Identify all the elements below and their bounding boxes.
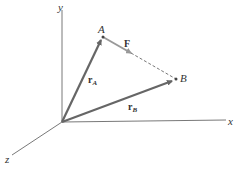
r-b-label: rB [128, 101, 137, 114]
z-axis [12, 122, 62, 155]
z-axis-label: z [4, 153, 10, 165]
force-label: F [124, 38, 130, 49]
dashed-line-a-b [131, 53, 176, 79]
point-b [175, 78, 178, 81]
position-vector-diagram: y x z A B F rA rB [0, 0, 245, 173]
x-axis [62, 120, 226, 122]
point-a-label: A [97, 23, 105, 35]
r-a-label: rA [88, 74, 97, 87]
diagram-canvas: y x z A B F rA rB [0, 0, 245, 173]
y-axis-label: y [57, 1, 63, 13]
point-b-label: B [180, 72, 187, 84]
x-axis-label: x [227, 115, 233, 127]
point-a [102, 36, 105, 39]
